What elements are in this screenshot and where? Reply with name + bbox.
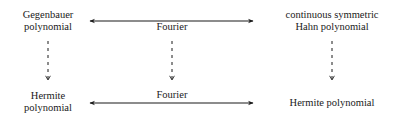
top-fourier-label: Fourier xyxy=(148,21,196,33)
node-hermite-polynomial-right: Hermite polynomial xyxy=(268,97,396,109)
node-hermite-polynomial-left: Hermite polynomial xyxy=(8,90,88,114)
node-line: Hahn polynomial xyxy=(268,21,396,33)
node-gegenbauer-polynomial: Gegenbauer polynomial xyxy=(8,9,88,33)
node-line: Hermite xyxy=(8,90,88,102)
node-line: Gegenbauer xyxy=(8,9,88,21)
node-line: polynomial xyxy=(8,102,88,114)
node-continuous-symmetric-hahn-polynomial: continuous symmetric Hahn polynomial xyxy=(268,9,396,33)
node-line: Hermite polynomial xyxy=(268,97,396,109)
node-line: polynomial xyxy=(8,21,88,33)
bottom-fourier-label: Fourier xyxy=(148,89,196,101)
node-line: continuous symmetric xyxy=(268,9,396,21)
